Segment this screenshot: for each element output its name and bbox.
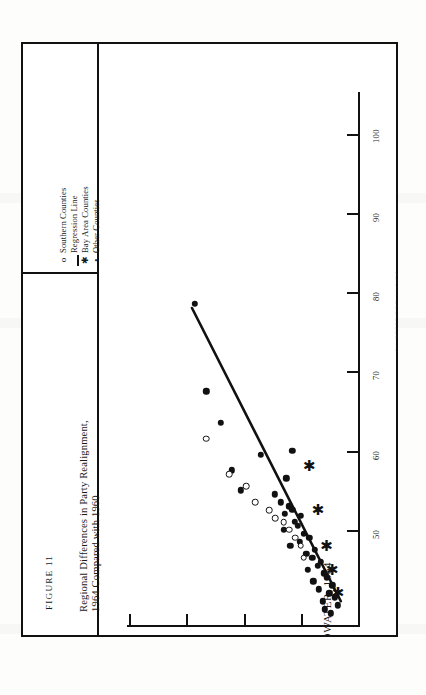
data-point-asterisk: ✱ bbox=[320, 539, 333, 552]
data-point-asterisk: ✱ bbox=[326, 563, 339, 576]
legend-item-southern-counties: oSouthern Counties bbox=[58, 188, 68, 267]
data-point-filled-dot bbox=[316, 586, 322, 592]
data-point-filled-dot bbox=[192, 301, 198, 307]
data-point-open-circle bbox=[243, 483, 250, 490]
legend-item-bay-area-counties: ✱Bay Area Counties bbox=[80, 186, 90, 267]
data-point-open-circle bbox=[203, 435, 210, 442]
data-point-open-circle bbox=[252, 499, 259, 506]
data-point-filled-dot bbox=[295, 523, 301, 529]
legend: oSouthern Counties Regression Line ✱Bay … bbox=[21, 42, 99, 272]
data-point-open-circle bbox=[300, 554, 307, 561]
legend-label: Southern Counties bbox=[58, 188, 68, 253]
data-point-filled-dot bbox=[335, 602, 341, 608]
legend-label: Regression Line bbox=[69, 195, 79, 253]
data-point-filled-dot bbox=[312, 547, 318, 553]
data-point-filled-dot bbox=[306, 535, 312, 541]
data-point-filled-dot bbox=[203, 388, 209, 394]
legend-item-regression-line: Regression Line bbox=[69, 195, 79, 267]
data-point-filled-dot bbox=[257, 451, 263, 457]
data-point-filled-dot bbox=[283, 475, 289, 481]
figure-caption-line-1: Regional Differences in Party Realignmen… bbox=[78, 420, 89, 612]
data-point-filled-dot bbox=[315, 562, 321, 568]
data-point-open-circle bbox=[286, 527, 293, 534]
data-point-open-circle bbox=[280, 519, 287, 526]
scatter-plot: 5060708090100 3040506070 % NIXON, 1960 %… bbox=[99, 42, 398, 637]
data-point-filled-dot bbox=[287, 543, 293, 549]
data-point-open-circle bbox=[226, 471, 233, 478]
asterisk-icon: ✱ bbox=[80, 253, 90, 267]
data-point-filled-dot bbox=[289, 507, 295, 513]
figure-number: FIGURE 11 bbox=[44, 555, 54, 610]
data-point-filled-dot bbox=[282, 511, 288, 517]
data-point-filled-dot bbox=[298, 512, 304, 518]
legend-label: Bay Area Counties bbox=[80, 186, 90, 253]
data-point-filled-dot bbox=[309, 554, 315, 560]
open-circle-icon: o bbox=[58, 253, 68, 267]
data-point-filled-dot bbox=[304, 566, 310, 572]
scanned-page: oSouthern Counties Regression Line ✱Bay … bbox=[0, 0, 426, 695]
data-point-open-circle bbox=[266, 507, 273, 514]
legend-box-divider bbox=[21, 272, 99, 274]
data-point-asterisk: ✱ bbox=[311, 504, 324, 517]
data-point-filled-dot bbox=[327, 610, 333, 616]
data-point-filled-dot bbox=[217, 420, 223, 426]
data-point-filled-dot bbox=[272, 491, 278, 497]
data-point-filled-dot bbox=[289, 447, 295, 453]
data-point-asterisk: ✱ bbox=[331, 587, 344, 600]
data-point-filled-dot bbox=[310, 578, 316, 584]
data-point-open-circle bbox=[272, 515, 279, 522]
data-point-asterisk: ✱ bbox=[303, 460, 316, 473]
data-point-open-circle bbox=[297, 542, 304, 549]
data-points-layer: ✱✱✱✱✱ bbox=[99, 42, 398, 637]
data-point-filled-dot bbox=[278, 499, 284, 505]
data-point-open-circle bbox=[292, 535, 299, 542]
data-point-filled-dot bbox=[319, 598, 325, 604]
